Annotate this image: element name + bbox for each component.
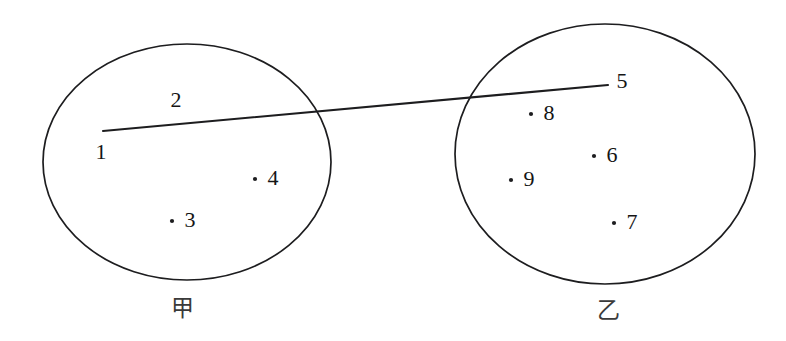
- point-dot-4: [253, 177, 257, 181]
- set-caption-yi: 乙: [597, 299, 620, 322]
- node-label-9: 9: [524, 168, 535, 190]
- node-label-1: 1: [96, 141, 107, 163]
- node-label-4: 4: [268, 167, 279, 189]
- point-dot-8: [529, 112, 533, 116]
- set-caption-jia: 甲: [171, 297, 194, 320]
- node-label-5: 5: [617, 70, 628, 92]
- point-dot-3: [170, 219, 174, 223]
- node-label-7: 7: [627, 211, 638, 233]
- point-dot-6: [592, 154, 596, 158]
- set-outline-jia: [43, 44, 331, 280]
- point-dot-7: [612, 221, 616, 225]
- node-label-8: 8: [544, 102, 555, 124]
- venn-figure-canvas: 1 2 3 4 5 6 7 8 9 甲 乙: [0, 0, 786, 341]
- point-dot-9: [509, 178, 513, 182]
- node-label-2: 2: [171, 89, 182, 111]
- set-outline-yi: [455, 24, 755, 284]
- node-label-6: 6: [607, 144, 618, 166]
- node-label-3: 3: [185, 209, 196, 231]
- figure-svg: [0, 0, 786, 341]
